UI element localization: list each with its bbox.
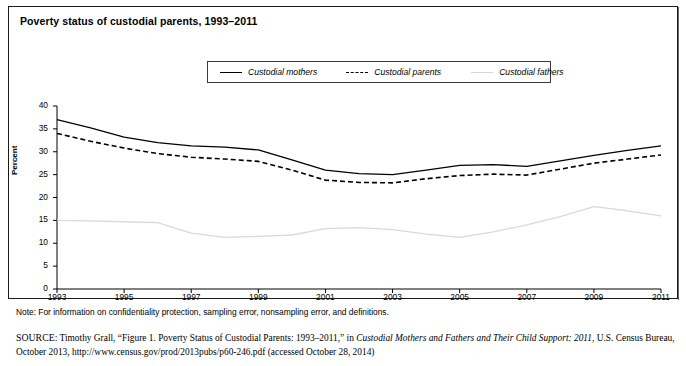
y-tick-label: 25 (26, 169, 48, 179)
x-tick-label: 1999 (240, 292, 276, 302)
series-line-custodial-mothers (57, 120, 661, 175)
y-tick-label: 5 (26, 260, 48, 270)
x-tick-label: 2001 (307, 292, 343, 302)
y-tick-label: 35 (26, 123, 48, 133)
x-tick-label: 2009 (576, 292, 612, 302)
chart-series (57, 120, 661, 238)
figure-note: Note: For information on confidentiality… (16, 307, 389, 317)
y-tick-label: 15 (26, 214, 48, 224)
y-tick-label: 20 (26, 192, 48, 202)
line-chart (0, 0, 670, 293)
chart-axes (53, 106, 661, 293)
x-tick-label: 1993 (39, 292, 75, 302)
y-tick-label: 30 (26, 146, 48, 156)
y-tick-label: 40 (26, 100, 48, 110)
x-tick-label: 2003 (375, 292, 411, 302)
y-tick-label: 10 (26, 237, 48, 247)
figure-page: Poverty status of custodial parents, 199… (0, 0, 686, 366)
figure-source: SOURCE: Timothy Grall, “Figure 1. Povert… (16, 331, 678, 359)
source-text-part1: Timothy Grall, “Figure 1. Poverty Status… (57, 333, 356, 343)
x-tick-label: 2007 (509, 292, 545, 302)
source-text-italic: Custodial Mothers and Fathers and Their … (356, 333, 592, 343)
x-tick-label: 2011 (643, 292, 679, 302)
chart-plot-area: Percent 0510152025303540 199319951997199… (0, 0, 670, 293)
series-line-custodial-fathers (57, 207, 661, 238)
source-heading: SOURCE: (16, 332, 57, 343)
x-tick-label: 2005 (442, 292, 478, 302)
x-tick-label: 1997 (173, 292, 209, 302)
x-tick-label: 1995 (106, 292, 142, 302)
